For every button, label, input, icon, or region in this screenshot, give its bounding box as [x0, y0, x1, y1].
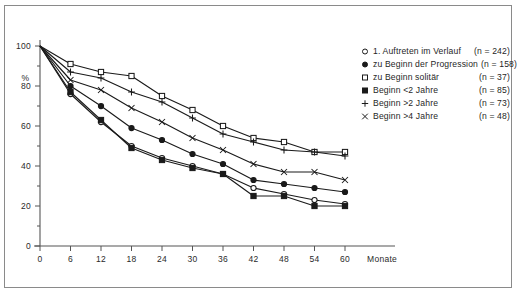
- data-point-marker: [281, 193, 286, 198]
- y-tick-label: 60: [21, 121, 31, 131]
- data-point-marker: [281, 181, 286, 186]
- legend-item-count: (n = 73): [476, 98, 510, 108]
- data-point-marker: [312, 197, 317, 202]
- legend-item-label: zu Beginn solitär: [373, 72, 476, 82]
- data-point-marker: [68, 89, 73, 94]
- data-point-marker: [220, 171, 225, 176]
- chart-series-4: [40, 46, 348, 209]
- legend-item-count: (n = 158): [478, 59, 517, 69]
- legend-marker-glyph: [363, 49, 368, 54]
- y-tick-label: 40: [21, 161, 31, 171]
- data-point-marker: [98, 87, 104, 93]
- data-point-marker: [251, 193, 256, 198]
- chart-series-6: [40, 46, 348, 183]
- legend-item-label: zu Beginn der Progression: [373, 59, 478, 69]
- legend-marker: [360, 70, 373, 83]
- legend-marker: [360, 96, 373, 109]
- series-line: [40, 46, 345, 152]
- legend-item-count: (n = 85): [476, 85, 510, 95]
- x-tick-label: 0: [37, 254, 42, 264]
- data-point-marker: [251, 185, 256, 190]
- data-point-marker: [342, 189, 347, 194]
- data-point-marker: [129, 125, 134, 130]
- data-point-marker: [281, 147, 288, 154]
- data-point-marker: [129, 145, 134, 150]
- legend-marker-glyph: [362, 114, 368, 120]
- legend-item-label: Beginn <2 Jahre: [373, 85, 476, 95]
- legend-item[interactable]: 1. Auftreten im Verlauf(n = 242): [360, 44, 510, 57]
- x-axis-label: Monate: [367, 254, 397, 264]
- x-tick-label: 24: [157, 254, 167, 264]
- legend-item[interactable]: Beginn >4 Jahre(n = 48): [360, 109, 510, 122]
- chart-figure: 020406080100%06121824303642485460Monate …: [0, 0, 517, 294]
- series-line: [40, 46, 345, 206]
- data-point-marker: [220, 123, 225, 128]
- x-tick-label: 42: [248, 254, 258, 264]
- legend-item-label: Beginn >4 Jahre: [373, 111, 476, 121]
- legend-item[interactable]: Beginn <2 Jahre(n = 85): [360, 83, 510, 96]
- legend-marker-glyph: [363, 62, 368, 67]
- data-point-marker: [68, 77, 74, 83]
- data-point-marker: [159, 137, 164, 142]
- legend-item-count: (n = 48): [476, 111, 510, 121]
- y-axis-unit-label: %: [21, 73, 29, 83]
- legend-item-count: (n = 242): [471, 46, 510, 56]
- series-line: [40, 46, 345, 156]
- data-point-marker: [159, 93, 164, 98]
- data-point-marker: [98, 117, 103, 122]
- legend-item[interactable]: zu Beginn solitär(n = 37): [360, 70, 510, 83]
- x-tick-label: 6: [68, 254, 73, 264]
- legend-item[interactable]: zu Beginn der Progression(n = 158): [360, 57, 510, 70]
- legend-marker-glyph: [362, 100, 368, 106]
- legend-marker: [360, 83, 373, 96]
- x-tick-label: 30: [187, 254, 197, 264]
- data-point-marker: [129, 105, 135, 111]
- x-tick-label: 12: [96, 254, 106, 264]
- data-point-marker: [190, 151, 195, 156]
- data-point-marker: [159, 99, 166, 106]
- data-point-marker: [189, 115, 196, 122]
- data-point-marker: [281, 139, 286, 144]
- chart-series-5: [40, 46, 348, 159]
- data-point-marker: [220, 131, 227, 138]
- data-point-marker: [190, 135, 196, 141]
- legend-item-count: (n = 37): [476, 72, 510, 82]
- series-line: [40, 46, 345, 204]
- y-tick-label: 20: [21, 201, 31, 211]
- chart-series-1: [40, 46, 348, 207]
- chart-legend: 1. Auftreten im Verlauf(n = 242)zu Begin…: [360, 44, 510, 122]
- x-tick-label: 18: [126, 254, 136, 264]
- legend-marker-cross-icon: [360, 110, 373, 123]
- legend-marker: [360, 57, 373, 70]
- data-point-marker: [98, 69, 103, 74]
- x-tick-label: 54: [309, 254, 319, 264]
- data-point-marker: [68, 83, 73, 88]
- x-tick-label: 36: [218, 254, 228, 264]
- legend-marker: [360, 44, 373, 57]
- legend-item-label: Beginn >2 Jahre: [373, 98, 476, 108]
- y-tick-label: 0: [26, 241, 31, 251]
- data-point-marker: [129, 73, 134, 78]
- data-point-marker: [68, 61, 73, 66]
- data-point-marker: [128, 89, 135, 96]
- data-point-marker: [312, 203, 317, 208]
- legend-marker-glyph: [363, 88, 368, 93]
- data-point-marker: [190, 107, 195, 112]
- x-tick-label: 48: [279, 254, 289, 264]
- y-tick-label: 100: [16, 41, 31, 51]
- data-point-marker: [98, 75, 105, 82]
- data-point-marker: [190, 165, 195, 170]
- data-point-marker: [220, 147, 226, 153]
- legend-item-label: 1. Auftreten im Verlauf: [373, 46, 471, 56]
- data-point-marker: [251, 177, 256, 182]
- data-point-marker: [220, 161, 225, 166]
- data-point-marker: [98, 103, 103, 108]
- data-point-marker: [342, 203, 347, 208]
- data-point-marker: [312, 185, 317, 190]
- legend-item[interactable]: Beginn >2 Jahre(n = 73): [360, 96, 510, 109]
- data-point-marker: [159, 157, 164, 162]
- data-point-marker: [159, 119, 165, 125]
- legend-marker: [360, 109, 373, 122]
- x-tick-label: 60: [340, 254, 350, 264]
- legend-marker-glyph: [363, 75, 368, 80]
